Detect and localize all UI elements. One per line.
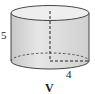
height-label: 5 bbox=[1, 29, 7, 41]
cylinder-diagram: 5 4 V bbox=[0, 0, 95, 94]
radius-label: 4 bbox=[66, 68, 72, 80]
caption-label: V bbox=[45, 81, 54, 94]
